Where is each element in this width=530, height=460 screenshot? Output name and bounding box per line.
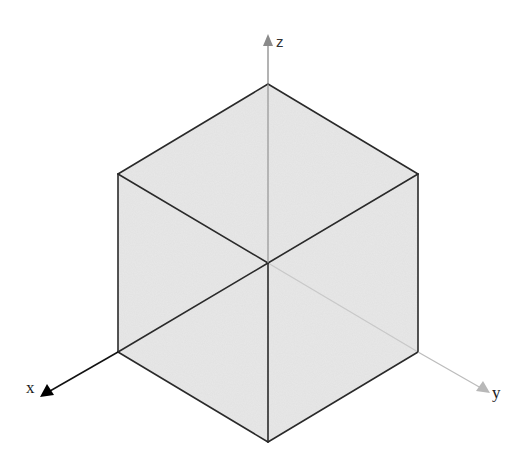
y-axis-line (418, 352, 481, 388)
x-axis: x (26, 352, 118, 397)
x-axis-label: x (26, 378, 35, 397)
isometric-cube-diagram: z x y (0, 0, 530, 460)
x-axis-line (50, 352, 118, 391)
y-axis-label: y (492, 383, 501, 402)
z-axis-arrowhead-icon (263, 34, 273, 46)
z-axis-label: z (276, 33, 284, 50)
y-axis: y (418, 352, 501, 402)
